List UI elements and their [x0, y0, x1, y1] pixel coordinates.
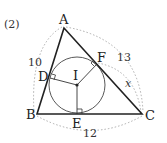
measure-ac: 13 [117, 51, 131, 64]
incenter-dot [75, 83, 78, 86]
measure-fc: x [125, 77, 132, 90]
label-d: D [38, 69, 48, 84]
label-c: C [145, 108, 155, 123]
measure-ab: 10 [28, 56, 42, 69]
label-e: E [72, 116, 82, 131]
label-b: B [26, 107, 36, 122]
triangle-incircle-diagram: (2) A B C D E F I 10 13 x 12 [0, 0, 167, 143]
radius-if [77, 64, 97, 85]
label-f: F [97, 50, 106, 65]
label-a: A [58, 12, 69, 27]
measure-bc: 12 [83, 127, 97, 140]
label-i: I [73, 68, 78, 83]
problem-number: (2) [4, 18, 20, 31]
